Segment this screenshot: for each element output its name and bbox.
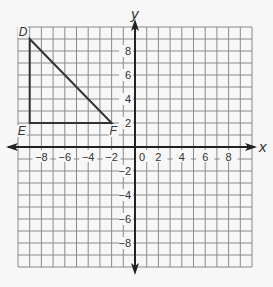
axes <box>6 19 257 275</box>
y-tick-label: 8 <box>125 45 131 57</box>
x-tick-label: −2 <box>105 151 118 163</box>
x-axis-label: x <box>258 138 267 155</box>
x-tick-label: 8 <box>226 151 232 163</box>
x-tick-label: 0 <box>139 151 145 163</box>
y-tick-label: −6 <box>118 213 131 225</box>
vertex-label-f: F <box>110 124 118 138</box>
y-tick-label: −8 <box>118 237 131 249</box>
x-tick-label: 4 <box>179 151 185 163</box>
y-tick-label: −2 <box>118 165 131 177</box>
y-tick-label: 4 <box>125 93 131 105</box>
x-tick-label: 6 <box>202 151 208 163</box>
triangle-def <box>30 39 112 123</box>
x-tick-label: −8 <box>35 151 48 163</box>
y-axis-label: y <box>130 5 140 22</box>
y-tick-label: 6 <box>125 69 131 81</box>
y-tick-label: −4 <box>118 189 131 201</box>
vertex-label-e: E <box>18 124 27 138</box>
coordinate-plane: −8−6−4−2024688642−2−4−6−8 DEF x y <box>0 0 273 287</box>
x-tick-label: −6 <box>59 151 72 163</box>
vertex-label-d: D <box>19 25 28 39</box>
triangle <box>30 39 112 123</box>
y-tick-label: 2 <box>125 117 131 129</box>
x-tick-label: −4 <box>82 151 95 163</box>
x-tick-label: 2 <box>155 151 161 163</box>
